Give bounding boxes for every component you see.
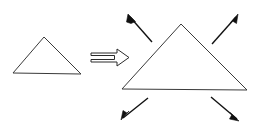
arrow-down-left-head bbox=[121, 111, 129, 121]
arrow-up-right-icon bbox=[212, 14, 238, 44]
arrow-up-left-head bbox=[127, 14, 136, 24]
arrow-up-left-icon bbox=[127, 14, 153, 42]
figure-canvas bbox=[0, 0, 255, 129]
arrow-down-right-icon bbox=[211, 97, 239, 121]
diagram-svg bbox=[0, 0, 255, 129]
small-triangle bbox=[13, 37, 81, 74]
arrow-down-right-head bbox=[230, 113, 240, 122]
arrow-down-left-icon bbox=[121, 98, 148, 120]
transformation-arrow-icon bbox=[91, 49, 129, 66]
arrow-down-left-shaft bbox=[123, 98, 148, 118]
large-triangle bbox=[122, 24, 247, 90]
